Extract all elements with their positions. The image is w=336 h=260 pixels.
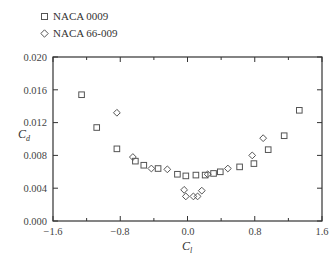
square-marker-icon: [114, 146, 120, 152]
diamond-marker-icon: [224, 165, 231, 172]
x-tick-labels: −1.6 −0.8 0.0 0.8 1.6: [43, 226, 328, 237]
diamond-marker-icon: [198, 187, 205, 194]
diamond-marker-icon: [190, 193, 197, 200]
square-marker-icon: [211, 171, 217, 177]
square-marker-icon: [94, 125, 100, 131]
diamond-marker-icon: [164, 166, 171, 173]
square-marker-icon: [183, 173, 189, 179]
square-marker-icon: [237, 164, 243, 170]
x-tick-label: 0.0: [181, 226, 194, 237]
square-marker-icon: [281, 133, 287, 139]
square-marker-icon: [175, 171, 181, 177]
x-tick-label: 1.6: [315, 226, 328, 237]
y-tick-label: 0.020: [23, 52, 47, 63]
scatter-plot: 0.000 0.004 0.008 0.012 0.016 0.020 −1.6…: [0, 0, 336, 260]
x-axis-title: Cl: [182, 239, 193, 255]
square-marker-icon: [265, 147, 271, 153]
data-points: [79, 92, 302, 200]
y-tick-label: 0.008: [23, 150, 47, 161]
diamond-marker-icon: [148, 165, 155, 172]
square-marker-icon: [251, 161, 257, 167]
y-tick-label: 0.016: [23, 85, 47, 96]
y-tick-label: 0.004: [23, 183, 47, 194]
diamond-marker-icon: [194, 193, 201, 200]
square-marker-icon: [297, 108, 303, 114]
square-marker-icon: [155, 166, 161, 172]
diamond-marker-icon: [249, 152, 256, 159]
square-marker-icon: [141, 162, 147, 168]
square-marker-icon: [217, 169, 223, 175]
x-tick-label: 0.8: [248, 226, 261, 237]
y-axis-title: Cd: [18, 127, 31, 143]
diamond-marker-icon: [113, 109, 120, 116]
square-marker-icon: [193, 172, 199, 178]
diamond-marker-icon: [182, 193, 189, 200]
diamond-marker-icon: [260, 135, 267, 142]
square-marker-icon: [79, 92, 85, 98]
x-tick-label: −0.8: [110, 226, 129, 237]
x-tick-label: −1.6: [43, 226, 62, 237]
y-tick-label: 0.012: [23, 117, 47, 128]
diamond-marker-icon: [181, 186, 188, 193]
